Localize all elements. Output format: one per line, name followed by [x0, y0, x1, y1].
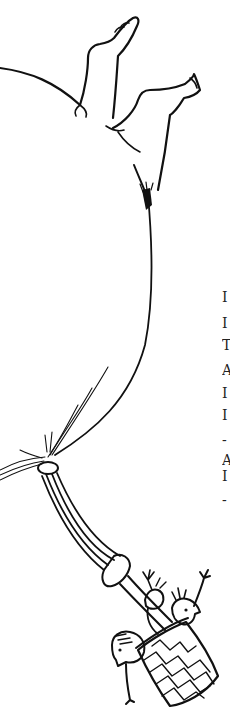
margin-char: I — [222, 469, 228, 483]
margin-char: I — [222, 290, 228, 304]
margin-char: - — [222, 493, 227, 507]
margin-char: T — [222, 338, 230, 352]
margin-char: I — [222, 386, 228, 400]
balloon-illustration — [0, 0, 230, 724]
margin-char: I — [222, 408, 228, 422]
margin-char: I — [222, 316, 228, 330]
legs-and-feet — [75, 17, 200, 210]
balloon-knot — [38, 462, 58, 474]
basket-with-passengers — [102, 555, 218, 706]
rope — [42, 473, 120, 570]
adjacent-page-text: I I T A I I - A I - — [222, 0, 230, 724]
margin-char: A — [222, 453, 230, 467]
balloon-outline — [0, 68, 151, 455]
margin-char: A — [222, 363, 230, 377]
margin-char: - — [222, 433, 227, 447]
